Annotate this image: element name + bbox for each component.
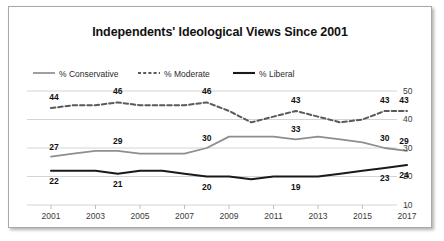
plot-area: 1020304050200120032005200720092011201320… bbox=[21, 85, 421, 215]
legend-swatch-icon bbox=[138, 69, 160, 77]
legend-item-moderate[interactable]: % Moderate bbox=[138, 64, 210, 80]
data-point-label: 29 bbox=[392, 136, 416, 146]
x-axis-tick-label: 2013 bbox=[301, 211, 335, 221]
data-point-label: 30 bbox=[195, 133, 219, 143]
x-axis-tick-label: 2009 bbox=[212, 211, 246, 221]
data-point-label: 20 bbox=[195, 182, 219, 192]
plot-svg bbox=[21, 85, 421, 215]
legend-label: % Liberal bbox=[259, 69, 294, 79]
legend-swatch-icon bbox=[33, 69, 55, 77]
chart-figure: Independents' Ideological Views Since 20… bbox=[8, 6, 432, 228]
y-axis-tick-label: 10 bbox=[403, 200, 412, 210]
x-axis-tick-label: 2001 bbox=[34, 211, 68, 221]
series-line-liberal bbox=[51, 165, 407, 179]
legend-item-liberal[interactable]: % Liberal bbox=[233, 64, 294, 80]
legend-swatch-icon bbox=[233, 69, 255, 77]
x-axis-tick-label: 2005 bbox=[123, 211, 157, 221]
x-axis-tick-label: 2003 bbox=[79, 211, 113, 221]
data-point-label: 44 bbox=[42, 92, 66, 102]
data-point-label: 19 bbox=[284, 182, 308, 192]
y-axis-tick-label: 40 bbox=[403, 114, 412, 124]
legend-label: % Moderate bbox=[164, 69, 210, 79]
x-axis-tick-label: 2007 bbox=[168, 211, 202, 221]
series-line-conservative bbox=[51, 137, 407, 157]
x-axis-tick-label: 2015 bbox=[346, 211, 380, 221]
data-point-label: 22 bbox=[42, 176, 66, 186]
data-point-label: 27 bbox=[42, 142, 66, 152]
legend-label: % Conservative bbox=[59, 69, 119, 79]
data-point-label: 46 bbox=[195, 86, 219, 96]
x-axis-tick-label: 2017 bbox=[390, 211, 424, 221]
data-point-label: 43 bbox=[284, 95, 308, 105]
chart-legend: % Conservative% Moderate% Liberal bbox=[33, 64, 333, 80]
legend-item-conservative[interactable]: % Conservative bbox=[33, 64, 119, 80]
data-point-label: 29 bbox=[106, 136, 130, 146]
chart-title: Independents' Ideological Views Since 20… bbox=[9, 25, 431, 39]
x-axis-tick-label: 2011 bbox=[257, 211, 291, 221]
data-point-label: 21 bbox=[106, 179, 130, 189]
data-point-label: 46 bbox=[106, 86, 130, 96]
data-point-label: 24 bbox=[392, 170, 416, 180]
data-point-label: 33 bbox=[284, 124, 308, 134]
data-point-label: 43 bbox=[392, 95, 416, 105]
